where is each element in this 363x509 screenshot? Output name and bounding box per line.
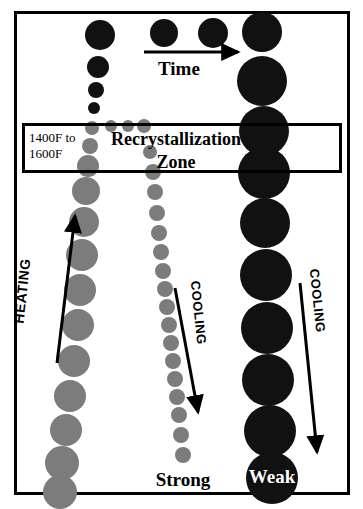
grain-circle [171,407,187,423]
grain-circle [237,56,287,106]
grain-circle [163,335,179,351]
recrystallization-zone-title: Recrystallization Zone [111,128,241,173]
grain-circle [58,345,90,377]
grain-circle [88,82,104,98]
grain-circle [147,184,163,200]
grain-circle [50,414,82,446]
grain-circle [157,281,173,297]
temperature-range-label: 1400F to 1600F [29,130,76,162]
grain-circle [64,274,96,306]
grain-circle [173,427,189,443]
grain-circle [165,353,181,369]
grain-circle [66,239,98,271]
diagram-canvas: Time 1400F to 1600F Recrystallization Zo… [0,0,363,509]
time-label: Time [158,58,200,80]
grain-circle [62,309,94,341]
temperature-line-1: 1400F to [29,130,76,146]
grain-circle [242,354,294,406]
grain-circle [149,205,165,221]
grain-circle [169,389,185,405]
zone-title-line-2: Zone [111,151,241,174]
weak-label: Weak [249,466,295,488]
grain-circle [155,263,171,279]
grain-circle [43,475,77,509]
temperature-line-2: 1600F [29,146,76,162]
grain-circle [87,56,109,78]
grain-circle [240,198,290,248]
grain-circle [69,207,99,237]
grain-circle [198,18,228,48]
grain-circle [161,317,177,333]
grain-circle [244,405,296,457]
grain-circle [159,299,175,315]
grain-circle [240,249,292,301]
grain-circle [72,177,100,205]
grain-circle [85,20,115,50]
zone-title-line-1: Recrystallization [111,128,241,151]
strong-label: Strong [156,469,211,491]
grain-circle [151,225,167,241]
grain-circle [241,302,293,354]
grain-circle [150,19,178,47]
grain-circle [88,102,100,114]
grain-circle [242,12,282,52]
grain-circle [167,371,183,387]
grain-circle [175,447,191,463]
grain-circle [54,380,86,412]
grain-circle [153,244,169,260]
